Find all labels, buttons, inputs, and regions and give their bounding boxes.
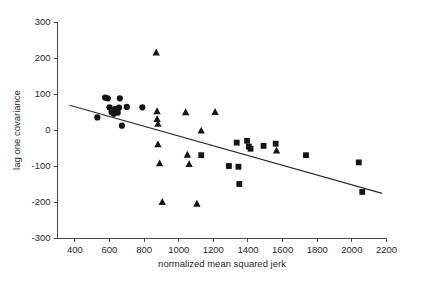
data-point-circle [94, 114, 100, 120]
x-tick-label: 1000 [168, 244, 189, 255]
x-tick-label: 1800 [307, 244, 328, 255]
data-point-circle [105, 95, 111, 101]
series-squares [198, 138, 365, 195]
data-point-square [356, 160, 362, 166]
y-tick-label: 300 [35, 16, 51, 27]
data-point-triangle [273, 147, 280, 154]
series-triangles [153, 49, 281, 207]
data-point-square [273, 141, 279, 147]
data-point-triangle [184, 151, 191, 158]
data-point-square [236, 164, 242, 170]
x-tick-label: 1200 [203, 244, 224, 255]
data-point-circle [117, 95, 123, 101]
data-point-square [359, 189, 365, 195]
y-tick-label: -100 [31, 160, 50, 171]
x-tick-label: 1400 [237, 244, 258, 255]
data-point-triangle [182, 108, 189, 115]
data-point-square [236, 181, 242, 187]
data-point-triangle [156, 159, 163, 166]
data-point-circle [139, 104, 145, 110]
data-point-circle [116, 105, 122, 111]
y-tick-label: 200 [35, 52, 51, 63]
data-point-circle [124, 104, 130, 110]
y-tick-label: -300 [31, 232, 50, 243]
data-point-square [303, 152, 309, 158]
data-point-triangle [153, 107, 160, 114]
data-point-square [226, 163, 232, 169]
regression-trend-line [70, 105, 383, 193]
data-point-square [198, 152, 204, 158]
y-axis-title: lag one covariance [11, 90, 22, 170]
data-point-triangle [193, 200, 200, 207]
x-tick-label: 600 [102, 244, 118, 255]
data-point-triangle [153, 115, 160, 122]
x-tick-label: 2000 [341, 244, 362, 255]
data-point-circle [119, 123, 125, 129]
data-point-triangle [211, 108, 218, 115]
y-tick-label: -200 [31, 196, 50, 207]
x-tick-label: 1600 [272, 244, 293, 255]
x-tick-label: 400 [67, 244, 83, 255]
x-tick-label: 800 [136, 244, 152, 255]
y-tick-label: 0 [45, 124, 50, 135]
data-point-triangle [154, 140, 161, 147]
data-point-square [248, 146, 254, 152]
x-axis-title: normalized mean squared jerk [158, 258, 286, 269]
data-point-square [244, 138, 250, 144]
axis-spines [58, 22, 387, 238]
scatter-plot-figure: -300-200-1000100200300400600800100012001… [0, 0, 426, 287]
data-point-square [234, 140, 240, 146]
y-tick-label: 100 [35, 88, 51, 99]
data-point-triangle [153, 49, 160, 56]
x-tick-label: 2200 [376, 244, 397, 255]
data-point-square [261, 143, 267, 149]
data-point-triangle [198, 127, 205, 134]
data-point-triangle [185, 160, 192, 167]
series-circles [94, 95, 145, 129]
data-point-triangle [159, 198, 166, 205]
